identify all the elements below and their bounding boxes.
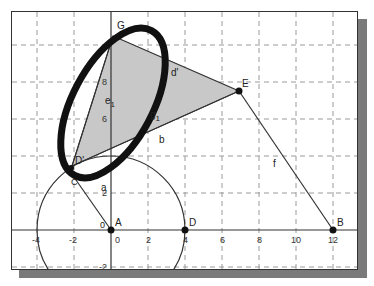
point-a[interactable]	[108, 227, 115, 234]
label-g: G	[117, 20, 125, 31]
point-d-prime[interactable]	[68, 165, 74, 171]
label-segment-b: b	[159, 134, 165, 145]
label-segment-f: f	[273, 158, 276, 169]
label-zero: 0	[100, 220, 105, 230]
point-b[interactable]	[330, 227, 337, 234]
svg-text:8: 8	[257, 235, 262, 245]
label-e: E	[242, 78, 249, 89]
svg-text:-2: -2	[99, 262, 107, 270]
label-segment-d-prime: d'	[171, 67, 179, 78]
x-tick-labels: -4 -2 0 2 4 6 8 10 12	[32, 235, 338, 245]
label-b: B	[337, 217, 344, 228]
svg-text:2: 2	[146, 235, 151, 245]
svg-text:8: 8	[102, 77, 107, 87]
svg-text:-2: -2	[69, 235, 77, 245]
svg-text:10: 10	[291, 235, 301, 245]
svg-text:12: 12	[328, 235, 338, 245]
label-a: A	[115, 217, 122, 228]
point-d[interactable]	[182, 227, 189, 234]
label-d-prime: D'	[75, 155, 84, 166]
svg-text:4: 4	[183, 235, 188, 245]
svg-text:2: 2	[102, 188, 107, 198]
svg-text:6: 6	[102, 114, 107, 124]
svg-text:0: 0	[115, 235, 120, 245]
label-c: C	[71, 177, 78, 187]
geometry-canvas[interactable]: A 0 D B E G C D' a b d' f e1 g1 -4 -2 0 …	[11, 11, 358, 270]
label-d: D	[189, 217, 196, 228]
svg-text:-4: -4	[32, 235, 40, 245]
svg-text:6: 6	[220, 235, 225, 245]
geometry-svg: A 0 D B E G C D' a b d' f e1 g1 -4 -2 0 …	[12, 12, 358, 270]
segment-f[interactable]	[239, 91, 333, 230]
